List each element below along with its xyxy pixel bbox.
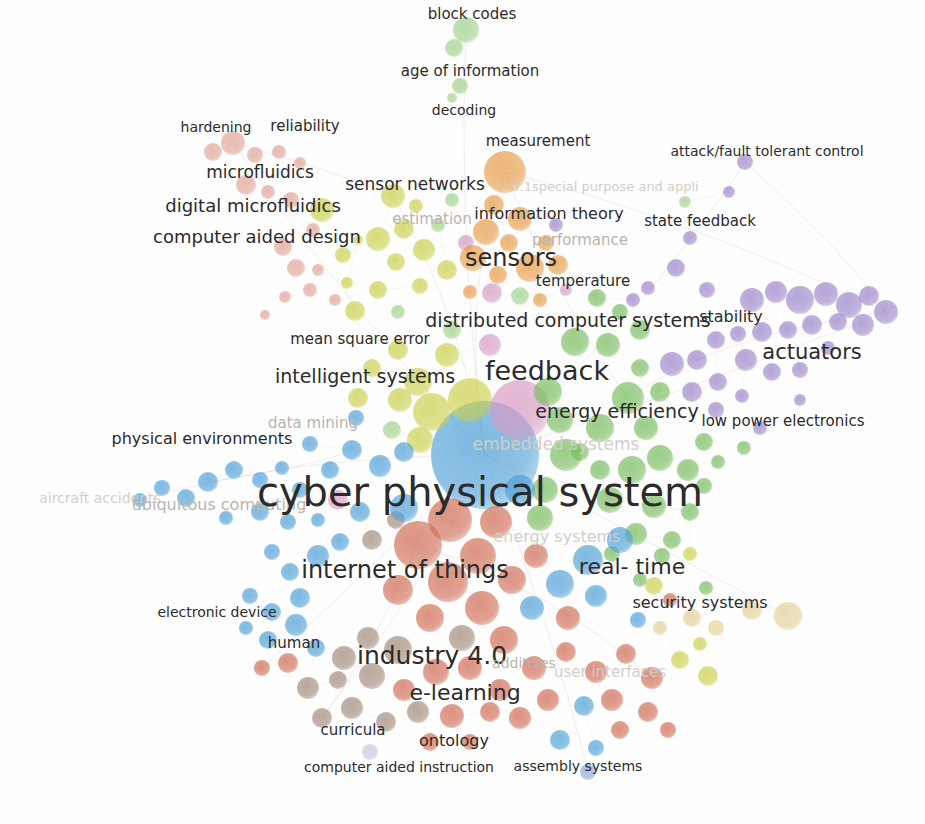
network-node[interactable] — [737, 441, 751, 455]
network-node[interactable] — [294, 157, 306, 169]
network-node[interactable] — [416, 604, 444, 632]
network-node[interactable] — [281, 563, 299, 581]
network-node[interactable] — [663, 531, 681, 549]
network-node[interactable] — [597, 487, 623, 513]
network-node[interactable] — [679, 196, 691, 208]
network-node[interactable] — [332, 646, 356, 670]
network-node[interactable] — [460, 245, 486, 271]
network-node[interactable] — [381, 184, 405, 208]
network-node[interactable] — [763, 363, 781, 381]
network-node[interactable] — [671, 651, 689, 669]
network-node[interactable] — [310, 198, 334, 222]
network-node[interactable] — [376, 712, 396, 732]
network-node[interactable] — [264, 544, 280, 560]
network-node[interactable] — [274, 238, 292, 256]
network-node[interactable] — [279, 291, 291, 303]
network-node[interactable] — [638, 702, 658, 722]
network-node[interactable] — [532, 477, 558, 503]
network-node[interactable] — [452, 78, 468, 94]
network-node[interactable] — [821, 341, 835, 355]
network-node[interactable] — [660, 352, 684, 376]
network-node[interactable] — [642, 494, 666, 518]
network-node[interactable] — [508, 207, 532, 231]
network-node[interactable] — [630, 612, 646, 628]
network-node[interactable] — [547, 407, 573, 433]
network-node[interactable] — [335, 247, 351, 263]
network-node[interactable] — [550, 730, 570, 750]
network-node[interactable] — [814, 282, 838, 306]
network-node[interactable] — [765, 281, 787, 303]
network-node[interactable] — [297, 677, 319, 699]
network-node[interactable] — [247, 147, 263, 163]
network-node[interactable] — [588, 289, 606, 307]
network-node[interactable] — [252, 472, 268, 488]
network-node[interactable] — [616, 644, 636, 664]
network-node[interactable] — [463, 285, 477, 299]
network-node[interactable] — [484, 151, 526, 193]
network-node[interactable] — [792, 362, 808, 378]
network-node[interactable] — [524, 544, 548, 568]
network-node[interactable] — [484, 195, 504, 215]
network-node[interactable] — [283, 192, 299, 208]
network-node[interactable] — [263, 603, 281, 621]
network-node[interactable] — [663, 593, 677, 607]
network-node[interactable] — [407, 701, 429, 723]
network-node[interactable] — [345, 301, 365, 321]
network-node[interactable] — [458, 656, 482, 680]
network-node[interactable] — [677, 459, 699, 481]
network-node[interactable] — [307, 545, 329, 567]
network-node[interactable] — [331, 533, 349, 551]
network-node[interactable] — [445, 39, 463, 57]
network-node[interactable] — [489, 679, 511, 701]
network-node[interactable] — [204, 143, 222, 161]
network-node[interactable] — [412, 278, 428, 294]
network-node[interactable] — [737, 154, 753, 170]
network-node[interactable] — [490, 626, 518, 654]
network-node[interactable] — [574, 696, 594, 716]
network-node[interactable] — [479, 334, 501, 356]
network-node[interactable] — [612, 304, 628, 320]
network-node[interactable] — [779, 321, 797, 339]
network-node[interactable] — [505, 475, 535, 505]
network-node[interactable] — [482, 283, 502, 303]
network-node[interactable] — [537, 689, 559, 711]
network-node[interactable] — [362, 744, 378, 760]
network-node[interactable] — [580, 764, 596, 780]
network-node[interactable] — [500, 234, 518, 252]
network-node[interactable] — [341, 277, 353, 289]
network-node[interactable] — [522, 656, 546, 680]
network-node[interactable] — [287, 259, 305, 277]
network-node[interactable] — [307, 639, 325, 657]
network-node[interactable] — [511, 287, 529, 305]
network-node[interactable] — [260, 310, 270, 320]
network-node[interactable] — [409, 199, 423, 213]
network-node[interactable] — [302, 436, 318, 452]
network-node[interactable] — [650, 382, 670, 402]
network-node[interactable] — [285, 614, 307, 636]
network-node[interactable] — [435, 343, 459, 367]
network-node[interactable] — [437, 260, 457, 280]
network-node[interactable] — [369, 281, 387, 299]
network-node[interactable] — [362, 530, 382, 550]
network-node[interactable] — [618, 456, 646, 484]
network-node[interactable] — [303, 283, 317, 297]
network-node[interactable] — [645, 577, 663, 595]
network-node[interactable] — [239, 621, 253, 635]
network-node[interactable] — [278, 653, 298, 673]
network-node[interactable] — [394, 521, 442, 569]
network-node[interactable] — [383, 421, 401, 439]
network-node[interactable] — [251, 503, 269, 521]
network-node[interactable] — [312, 708, 332, 728]
network-node[interactable] — [612, 382, 644, 414]
network-node[interactable] — [708, 620, 724, 636]
network-node[interactable] — [460, 538, 496, 574]
network-node[interactable] — [546, 570, 574, 598]
network-node[interactable] — [681, 503, 699, 521]
network-node[interactable] — [709, 373, 727, 391]
network-node[interactable] — [611, 721, 629, 739]
network-node[interactable] — [388, 388, 412, 412]
network-node[interactable] — [647, 445, 673, 471]
network-node[interactable] — [707, 331, 725, 349]
network-node[interactable] — [753, 421, 767, 435]
network-node[interactable] — [654, 548, 670, 564]
